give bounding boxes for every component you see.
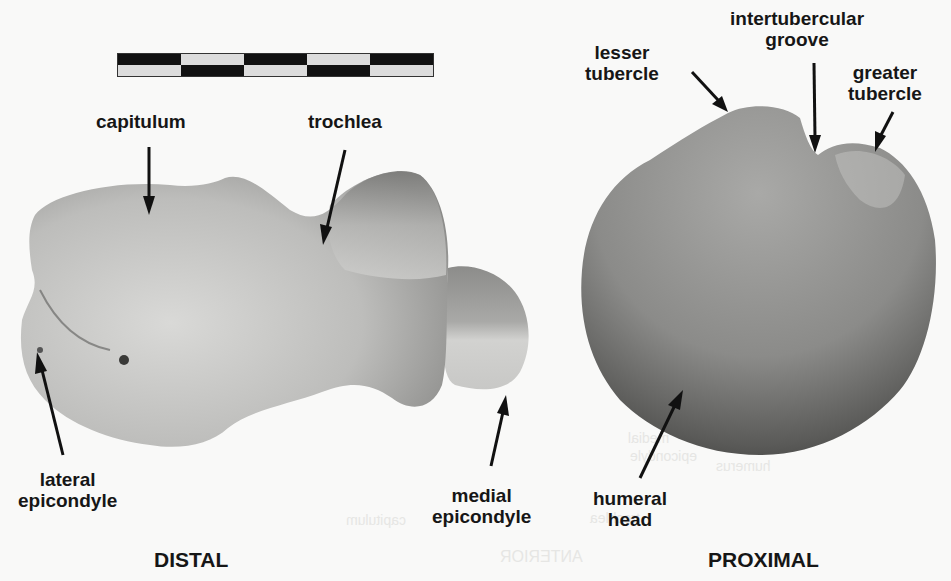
arrow-lesser-tubercle: [692, 72, 728, 112]
arrow-medial-epicondyle: [491, 395, 509, 466]
label-line: tubercle: [585, 63, 659, 84]
distal-humerus-specimen: [21, 171, 529, 447]
label-line: intertubercular: [730, 8, 864, 29]
label-line: lesser: [585, 42, 659, 63]
arrow-greater-tubercle: [875, 112, 893, 152]
label-line: tubercle: [848, 83, 922, 104]
foramen-dot: [119, 355, 129, 365]
label-line: epicondyle: [432, 506, 531, 527]
label-capitulum: capitulum: [96, 111, 186, 132]
label-medial-epicondyle: medial epicondyle: [432, 485, 531, 527]
label-lateral-epicondyle: lateral epicondyle: [18, 469, 117, 511]
label-line: groove: [730, 29, 864, 50]
label-line: greater: [848, 62, 922, 83]
label-line: humeral: [593, 488, 667, 509]
label-intertubercular-groove: intertubercular groove: [730, 8, 864, 50]
arrow-intertubercular-groove: [809, 63, 821, 153]
trochlea-shading: [328, 172, 446, 280]
proximal-humerus-specimen: [581, 106, 936, 455]
label-trochlea: trochlea: [308, 111, 382, 132]
foramen-dot: [37, 347, 43, 353]
view-label-distal: DISTAL: [154, 548, 228, 572]
medial-epicondyle-shape: [443, 266, 528, 389]
label-greater-tubercle: greater tubercle: [848, 62, 922, 104]
label-humeral-head: humeral head: [593, 488, 667, 530]
view-label-proximal: PROXIMAL: [708, 548, 819, 572]
label-line: head: [593, 509, 667, 530]
label-line: lateral: [18, 469, 117, 490]
label-line: medial: [432, 485, 531, 506]
label-line: epicondyle: [18, 490, 117, 511]
label-lesser-tubercle: lesser tubercle: [585, 42, 659, 84]
